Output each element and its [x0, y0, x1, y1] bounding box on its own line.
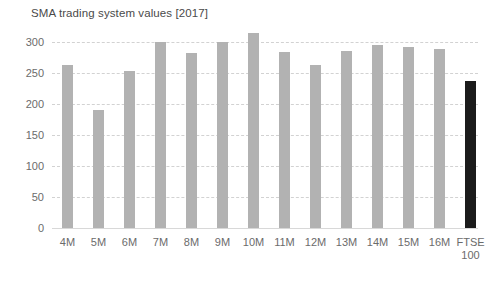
y-axis-tick-label: 250 — [26, 67, 44, 79]
bar[interactable] — [186, 53, 197, 228]
y-axis-tick-label: 100 — [26, 160, 44, 172]
gridline — [52, 228, 478, 229]
bar[interactable] — [403, 47, 414, 228]
y-axis-tick-label: 200 — [26, 98, 44, 110]
bar[interactable] — [93, 110, 104, 228]
bar[interactable] — [279, 52, 290, 228]
y-axis-tick-label: 0 — [38, 222, 44, 234]
x-axis: 4M5M6M7M8M9M10M11M12M13M14M15M16MFTSE 10… — [52, 236, 478, 282]
chart-container: SMA trading system values [2017] 0501001… — [0, 0, 504, 283]
bar[interactable] — [465, 81, 476, 228]
bar[interactable] — [310, 65, 321, 228]
plot-area — [52, 26, 478, 228]
y-axis-tick-label: 50 — [32, 191, 44, 203]
bar[interactable] — [372, 45, 383, 228]
x-axis-tick-label: FTSE 100 — [451, 236, 491, 262]
bar[interactable] — [62, 65, 73, 228]
bar[interactable] — [341, 51, 352, 228]
y-axis-tick-label: 150 — [26, 129, 44, 141]
bar[interactable] — [248, 33, 259, 228]
bar[interactable] — [155, 42, 166, 228]
y-axis: 050100150200250300 — [0, 0, 52, 283]
chart-title: SMA trading system values [2017] — [31, 7, 208, 19]
bar[interactable] — [217, 42, 228, 228]
bar-series — [52, 26, 478, 228]
bar[interactable] — [124, 71, 135, 228]
bar[interactable] — [434, 49, 445, 228]
y-axis-tick-label: 300 — [26, 36, 44, 48]
